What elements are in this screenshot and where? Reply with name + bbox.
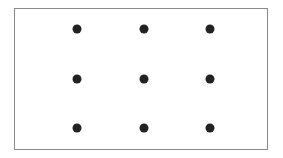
dot-2-1	[73, 75, 82, 84]
dot-1-2	[140, 25, 149, 34]
dot-2-2	[140, 75, 149, 84]
dot-3-3	[206, 124, 215, 133]
dot-3-2	[140, 124, 149, 133]
dot-1-3	[206, 25, 215, 34]
dot-1-1	[73, 25, 82, 34]
dot-2-3	[206, 75, 215, 84]
dot-3-1	[73, 124, 82, 133]
